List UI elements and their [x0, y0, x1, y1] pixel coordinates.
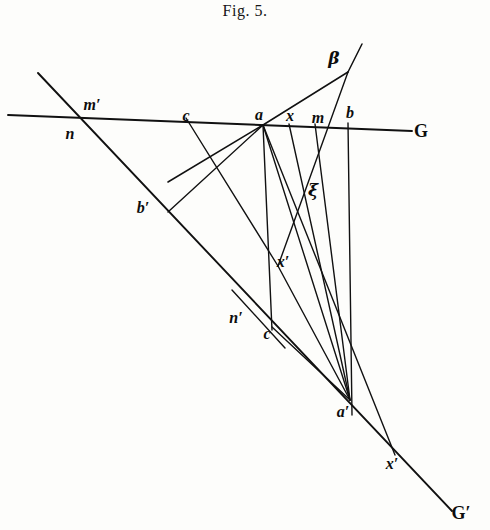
point-label-a: a [255, 107, 263, 123]
point-label-n: n [66, 126, 75, 142]
point-label-x-prime-lower: x′ [386, 456, 399, 472]
figure-root: Fig. 5. βnm′caxmbGb′ξx′n′ca′x′G′ [0, 0, 490, 530]
ray-beta-a [263, 72, 348, 125]
point-label-b: b [346, 105, 354, 121]
line-G-prime [38, 73, 452, 511]
point-label-b-prime: b′ [137, 200, 150, 216]
line-a-xlow [263, 125, 395, 455]
line-m-aprime [315, 124, 350, 400]
point-label-m: m [312, 110, 324, 126]
ray-beta-a-ext [168, 125, 263, 182]
line-layer [8, 44, 452, 511]
point-label-x-prime-upper: x′ [277, 254, 290, 270]
point-label-G-prime-end: G′ [451, 504, 470, 522]
point-label-c-prime: c [263, 326, 270, 342]
point-label-n-prime: n′ [229, 310, 242, 326]
line-a-cprime [263, 125, 272, 330]
point-label-c: c [182, 108, 189, 124]
point-label-m-prime: m′ [84, 97, 101, 113]
point-label-G-end: G [414, 122, 428, 140]
point-label-a-prime: a′ [337, 404, 350, 420]
line-a-bprime [168, 125, 263, 212]
ray-beta-xi [278, 72, 348, 266]
geometry-diagram [0, 0, 490, 530]
ray-beta-top-ext [348, 44, 362, 72]
point-label-xi: ξ [308, 182, 318, 199]
point-label-x: x [286, 108, 294, 124]
line-x-aprime [289, 124, 350, 400]
point-label-beta: β [328, 50, 339, 67]
vertical-b-down [348, 123, 352, 415]
